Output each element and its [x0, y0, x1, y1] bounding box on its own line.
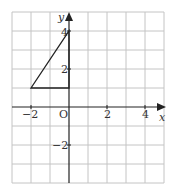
x-tick-label-2: 2: [104, 109, 111, 120]
y-tick-label-4: 4: [61, 27, 68, 38]
y-tick-label-neg2: −2: [52, 140, 68, 151]
y-axis-label: y: [58, 12, 64, 23]
origin-label: O: [59, 109, 68, 120]
grid-lines: [12, 12, 164, 183]
x-axis-arrow-icon: [157, 103, 166, 111]
coordinate-grid: [0, 0, 171, 196]
axes: [12, 18, 160, 183]
x-tick-label-neg2: −2: [22, 109, 38, 120]
y-axis-arrow-icon: [65, 12, 73, 21]
x-axis-label: x: [159, 112, 165, 123]
x-tick-label-4: 4: [142, 109, 149, 120]
y-tick-label-2: 2: [61, 64, 68, 75]
